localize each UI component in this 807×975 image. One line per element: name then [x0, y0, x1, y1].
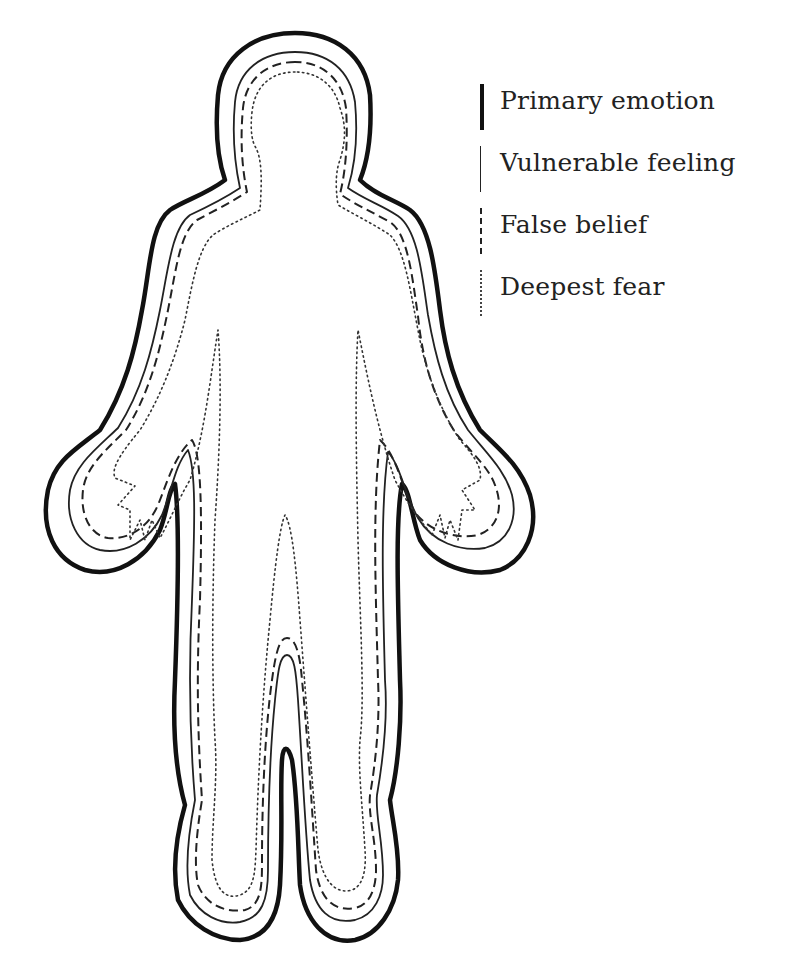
- vulnerable-feeling-outline: [69, 52, 514, 923]
- false-belief-outline: [82, 62, 499, 911]
- legend-item-vulnerable-feeling: Vulnerable feeling: [476, 142, 806, 204]
- legend-label: Deepest fear: [500, 272, 665, 301]
- legend-item-primary-emotion: Primary emotion: [476, 80, 806, 142]
- legend-label: False belief: [500, 210, 647, 239]
- legend-label: Vulnerable feeling: [500, 148, 736, 177]
- legend-label: Primary emotion: [500, 86, 715, 115]
- legend-item-deepest-fear: Deepest fear: [476, 266, 806, 328]
- thin-solid-line-icon: [480, 146, 481, 192]
- dashed-line-icon: [480, 208, 482, 254]
- deepest-fear-outline: [114, 72, 480, 896]
- legend-item-false-belief: False belief: [476, 204, 806, 266]
- dotted-line-icon: [480, 270, 482, 316]
- primary-emotion-outline: [46, 33, 533, 941]
- legend: Primary emotion Vulnerable feeling False…: [476, 80, 806, 328]
- thick-solid-line-icon: [480, 84, 484, 130]
